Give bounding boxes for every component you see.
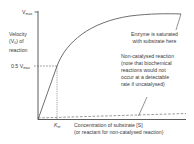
half-vmax-sub: max	[23, 66, 30, 70]
x-axis-label: Concentration of substrate [S] (or react…	[74, 122, 163, 136]
half-vmax-label: 0.5 Vmax	[11, 63, 30, 71]
km-label: Km	[54, 122, 60, 130]
x-label-line-2: (or reactant for non-catalysed reaction)	[74, 129, 163, 136]
y-axis-label: Velocity (V0) of reaction	[9, 31, 27, 54]
noncatalysed-pointer	[139, 97, 148, 116]
noncatalysed-line-3: reactions would not	[121, 67, 174, 74]
saturation-line-1: Enzyme is saturated	[131, 31, 178, 38]
noncatalysed-annotation: Non-catalysed reaction (note that bioche…	[121, 53, 174, 88]
saturation-line-2: with substrate here	[131, 38, 178, 45]
x-label-line-1: Concentration of substrate [S]	[74, 122, 163, 129]
y-label-line-3: reaction	[9, 47, 27, 54]
vmax-label-sub: max	[25, 12, 32, 16]
noncatalysed-line-1: Non-catalysed reaction	[121, 53, 174, 60]
y-label-of: ) of	[16, 38, 24, 44]
noncatalysed-line-2: (note that biochemical	[121, 60, 174, 67]
km-sub: m	[57, 125, 60, 129]
half-vmax-prefix: 0.5 V	[11, 63, 23, 69]
saturation-annotation: Enzyme is saturated with substrate here	[131, 31, 178, 44]
noncatalysed-line-4: occur at a detectable	[121, 74, 174, 81]
saturation-pointer	[176, 14, 181, 30]
noncatalysed-line	[38, 114, 186, 119]
y-label-line-2: (V0) of	[9, 38, 27, 47]
y-label-line-1: Velocity	[9, 31, 27, 38]
vmax-label: Vmax	[22, 9, 32, 17]
noncatalysed-line-5: rate if uncatalysed)	[121, 81, 174, 88]
